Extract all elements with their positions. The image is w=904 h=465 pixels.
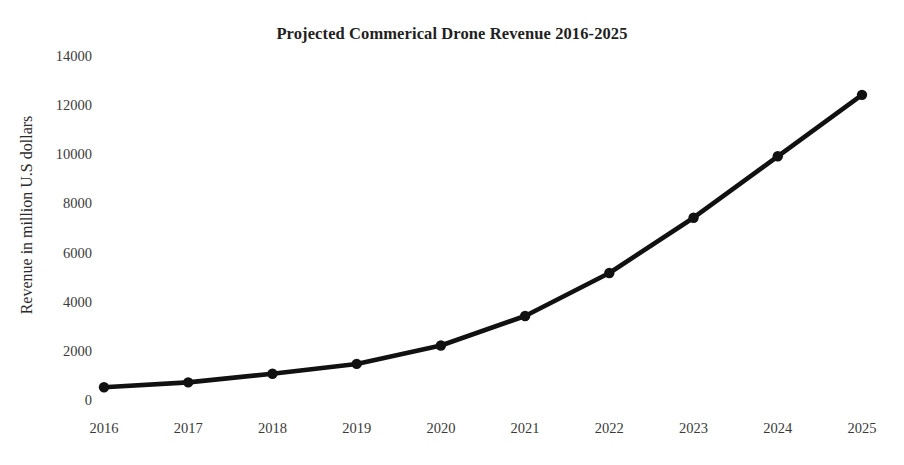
data-point-marker <box>183 377 193 387</box>
data-point-marker <box>688 213 698 223</box>
data-point-marker <box>351 359 361 369</box>
data-point-marker <box>436 340 446 350</box>
data-point-marker <box>773 151 783 161</box>
chart-container: Projected Commerical Drone Revenue 2016-… <box>0 0 904 465</box>
data-series-line <box>104 95 862 387</box>
data-point-marker <box>99 382 109 392</box>
data-point-marker <box>857 90 867 100</box>
data-point-markers <box>99 90 867 393</box>
data-point-marker <box>267 369 277 379</box>
plot-area <box>0 0 904 465</box>
data-point-marker <box>604 268 614 278</box>
series-line <box>104 95 862 387</box>
data-point-marker <box>520 311 530 321</box>
